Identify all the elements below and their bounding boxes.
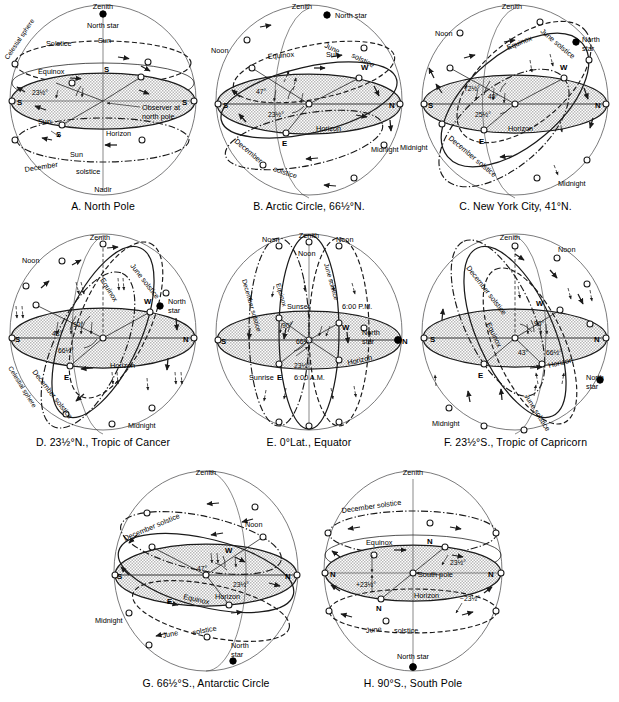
- panel-b-east: E: [282, 139, 287, 148]
- panel-h-north-star: North star: [397, 652, 430, 661]
- panel-a-nadir: Nadir: [94, 185, 112, 194]
- panel-g-horizon: Horizon: [215, 592, 240, 601]
- panel-f-north: N: [594, 335, 600, 344]
- celestial-sphere-figure: Zenith North star Celestial sphere Solst…: [0, 0, 619, 702]
- panel-b-horizon: Horizon: [316, 124, 341, 133]
- panel-a-equinox: Equinox: [38, 67, 65, 76]
- panel-g-angle-1: 23½°: [233, 581, 249, 588]
- panel-e-west: W: [342, 323, 350, 332]
- panel-d-tropic-of-cancer: Zenith Noon June solstice Northstar Equi…: [0, 228, 206, 456]
- panel-e-noon-center: Noon: [298, 249, 315, 258]
- panel-f-angle-2: 66½°: [546, 349, 562, 356]
- panel-d-west: W: [144, 297, 152, 306]
- panel-f-east: E: [478, 371, 483, 380]
- panel-e-noon-right: Noon: [336, 235, 353, 244]
- panel-h-n-right: N: [488, 570, 494, 579]
- panel-a-s-upper: S: [104, 65, 109, 74]
- panel-h-angle-1: +23½°: [356, 581, 376, 588]
- panel-g-north: N: [285, 572, 291, 581]
- panel-e-angle-0: 90°: [282, 322, 293, 329]
- panel-h-south-pole: South pole: [418, 570, 453, 579]
- panel-a-sun-bottom: Sun: [70, 150, 83, 159]
- panel-a-s-right: S: [182, 98, 187, 107]
- panel-e-north: N: [402, 337, 408, 346]
- panel-b-west: W: [361, 63, 369, 72]
- panel-h-angle-2: −23½°: [460, 595, 480, 602]
- panel-c-horizon: Horizon: [508, 124, 533, 133]
- panel-h-n-left: N: [330, 570, 336, 579]
- panel-c-north-star: Northstar: [582, 35, 600, 53]
- panel-b-angle-1: 23½°: [268, 111, 284, 118]
- panel-d-east: E: [64, 373, 69, 382]
- panel-h-june: June: [365, 624, 382, 635]
- panel-c-angle-2: 25½°: [475, 111, 491, 118]
- panel-d-north: N: [183, 335, 189, 344]
- panel-b-caption: B. Arctic Circle, 66½°N.: [206, 200, 412, 212]
- panel-d-zenith: Zenith: [90, 233, 110, 242]
- panel-a-s-left: S: [17, 98, 22, 107]
- panel-d-midnight: Midnight: [128, 421, 156, 430]
- panel-c-west: W: [560, 63, 568, 72]
- panel-f-noon: Noon: [558, 245, 575, 254]
- panel-h-horizon: Horizon: [414, 591, 439, 600]
- panel-c-angle-0: 72½°: [464, 85, 480, 92]
- panel-g-zenith: Zenith: [196, 468, 216, 477]
- panel-b-arctic-circle: Zenith North star Noon June solstice Sun…: [206, 0, 412, 220]
- panel-g-caption: G. 66½°S., Antarctic Circle: [103, 677, 309, 689]
- panel-a-north-star: North star: [87, 21, 120, 30]
- panel-c-south: S: [428, 101, 433, 110]
- panel-h-south-pole: Zenith December solstice Equinox N 23½° …: [310, 465, 516, 702]
- panel-a-sun-top: Sun: [98, 36, 111, 45]
- panel-c-midnight-right: Midnight: [558, 179, 586, 188]
- panel-b-south: S: [223, 101, 228, 110]
- panel-c-angle-1: 49°: [488, 93, 499, 100]
- panel-f-south: S: [430, 335, 435, 344]
- panel-b-angle-0: 47°: [256, 88, 267, 95]
- panel-e-angle-1: 66½°: [296, 338, 312, 345]
- panel-b-sun: Sun: [326, 50, 339, 59]
- panel-e-east: E: [277, 373, 282, 382]
- panel-f-tropic-of-capricorn: Zenith Noon December solstice Equinox W …: [412, 228, 619, 456]
- panel-g-noon: Noon: [245, 520, 262, 529]
- panel-a-caption: A. North Pole: [0, 200, 206, 212]
- panel-g-south: S: [117, 572, 122, 581]
- panel-g-midnight: Midnight: [95, 616, 123, 625]
- panel-d-angle-1: 43°: [52, 330, 63, 337]
- panel-d-angle-0: 90°: [73, 321, 84, 328]
- panel-d-angle-2: 66½°: [58, 347, 74, 354]
- panel-g-west: W: [225, 546, 233, 555]
- panel-g-angle-0: 47°: [197, 565, 208, 572]
- panel-h-n-upper: N: [427, 537, 433, 546]
- panel-f-angle-0: 90°: [534, 320, 545, 327]
- panel-d-caption: D. 23½°N., Tropic of Cancer: [0, 436, 206, 448]
- panel-b-noon: Noon: [211, 46, 228, 55]
- panel-d-noon: Noon: [22, 256, 39, 265]
- panel-e-zenith: Zenith: [299, 231, 319, 240]
- panel-c-east: E: [479, 137, 484, 146]
- panel-c-north: N: [595, 101, 601, 110]
- panel-e-south: S: [221, 337, 226, 346]
- panel-b-north: N: [389, 101, 395, 110]
- panel-h-n-lower: N: [376, 604, 382, 613]
- panel-e-am: 6:00 A.M.: [294, 373, 325, 382]
- panel-e-caption: E. 0°Lat., Equator: [206, 436, 412, 448]
- panel-a-s-lower: S: [56, 130, 61, 139]
- panel-b-zenith: Zenith: [292, 2, 312, 11]
- panel-h-solstice: solstice: [394, 626, 418, 635]
- panel-h-zenith: Zenith: [403, 468, 423, 477]
- panel-c-new-york-city: Zenith Noon June solstice Northstar Equi…: [412, 0, 619, 220]
- panel-f-midnight: Midnight: [432, 419, 460, 428]
- panel-e-equator: Zenith Noon Noon Noon December solstice …: [206, 228, 412, 456]
- panel-h-equinox: Equinox: [366, 538, 393, 547]
- panel-c-caption: C. New York City, 41°N.: [412, 200, 619, 212]
- panel-e-angle-2: 23½°: [294, 362, 310, 369]
- panel-e-pm: 6:00 P.M.: [342, 302, 372, 311]
- panel-e-noon-left: Noon: [262, 235, 279, 244]
- panel-d-horizon: Horizon: [110, 361, 135, 370]
- panel-f-west: W: [536, 299, 544, 308]
- panel-a-solstice: Solstice: [46, 39, 72, 48]
- panel-g-east: E: [167, 597, 172, 606]
- panel-g-antarctic-circle: Zenith December solstice Noon W 47° 23½°…: [103, 465, 309, 702]
- panel-a-angle-0: 23½°: [32, 89, 48, 96]
- panel-b-north-star: North star: [335, 11, 368, 20]
